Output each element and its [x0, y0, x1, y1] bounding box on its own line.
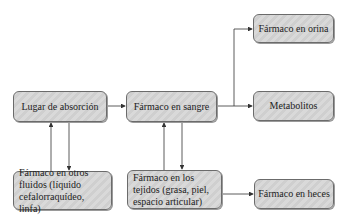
node-label: Fármaco en orina: [259, 23, 329, 35]
edge-sangre-orina: [234, 29, 252, 106]
node-label: Fármaco en los tejidos (grasa, piel, esp…: [133, 172, 218, 208]
node-lugar-de-absorcion: Lugar de absorción: [13, 91, 107, 122]
node-label: Lugar de absorción: [21, 101, 98, 113]
node-label: Fármaco en sangre: [134, 101, 210, 113]
node-label: Metabolitos: [270, 100, 318, 112]
node-farmaco-en-otros-fluidos: Fármaco en otros fluidos (líquido cefalo…: [13, 171, 112, 210]
node-farmaco-en-orina: Fármaco en orina: [253, 14, 334, 43]
node-label: Fármaco en otros fluidos (líquido cefalo…: [19, 167, 108, 215]
node-farmaco-en-heces: Fármaco en heces: [254, 179, 334, 209]
node-farmaco-en-sangre: Fármaco en sangre: [126, 91, 217, 122]
node-label: Fármaco en heces: [258, 188, 330, 200]
node-metabolitos: Metabolitos: [253, 91, 334, 121]
node-farmaco-en-los-tejidos: Fármaco en los tejidos (grasa, piel, esp…: [127, 170, 222, 209]
